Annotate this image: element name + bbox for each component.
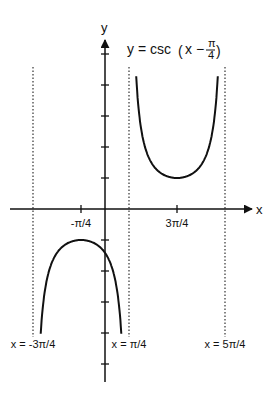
chart-title: y = csc ( x − π 4 ): [127, 37, 221, 61]
x-tick-label: -π/4: [71, 217, 91, 229]
y-axis-label: y: [101, 20, 108, 35]
title-open-paren: (: [178, 43, 183, 59]
asymptote-label: x = π/4: [112, 338, 147, 350]
title-numerator: π: [208, 37, 216, 49]
curve-branch: [41, 240, 122, 334]
x-tick-label: 3π/4: [166, 217, 189, 229]
title-x: x −: [185, 41, 204, 57]
asymptote-label: x = 5π/4: [205, 338, 246, 350]
x-axis-label: x: [256, 202, 263, 217]
csc-graph: x = -3π/4x = π/4x = 5π/4 x y -π/43π/4 y …: [0, 0, 274, 394]
title-denominator: 4: [208, 49, 214, 61]
title-lhs: y = csc: [127, 41, 171, 57]
asymptote-label: x = -3π/4: [11, 338, 56, 350]
curve-branch: [136, 76, 218, 178]
title-close-paren: ): [216, 43, 221, 59]
